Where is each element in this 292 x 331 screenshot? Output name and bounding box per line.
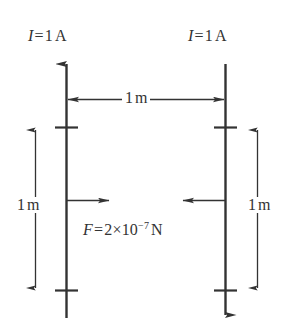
left-length-label: 1m	[14, 197, 42, 213]
right-length-label: 1m	[245, 197, 273, 213]
right-current-symbol: I	[188, 27, 194, 44]
force-unit: N	[149, 221, 163, 238]
left-length-unit: m	[25, 196, 39, 213]
separation-value: 1	[125, 89, 133, 106]
right-length-unit: m	[256, 196, 270, 213]
force-base: 10	[122, 221, 138, 238]
figure-root: I=1A I=1A 1m 1m 1m F=2×10−7N	[0, 0, 292, 331]
left-current-unit: A	[53, 27, 67, 44]
left-current-label: I=1A	[28, 28, 67, 44]
left-current-equals: =	[34, 27, 45, 44]
left-current-symbol: I	[28, 27, 34, 44]
right-length-value: 1	[248, 196, 256, 213]
left-current-value: 1	[45, 27, 53, 44]
right-current-label: I=1A	[188, 28, 227, 44]
force-equals: =	[93, 221, 104, 238]
right-current-unit: A	[213, 27, 227, 44]
force-exponent: −7	[138, 220, 149, 231]
right-current-value: 1	[205, 27, 213, 44]
diagram-canvas	[0, 0, 292, 331]
right-current-equals: =	[194, 27, 205, 44]
force-equation-label: F=2×10−7N	[83, 222, 163, 238]
separation-label: 1m	[122, 90, 150, 106]
left-length-value: 1	[17, 196, 25, 213]
multiplication-sign: ×	[112, 221, 121, 238]
separation-unit: m	[133, 89, 147, 106]
force-symbol: F	[83, 221, 93, 238]
